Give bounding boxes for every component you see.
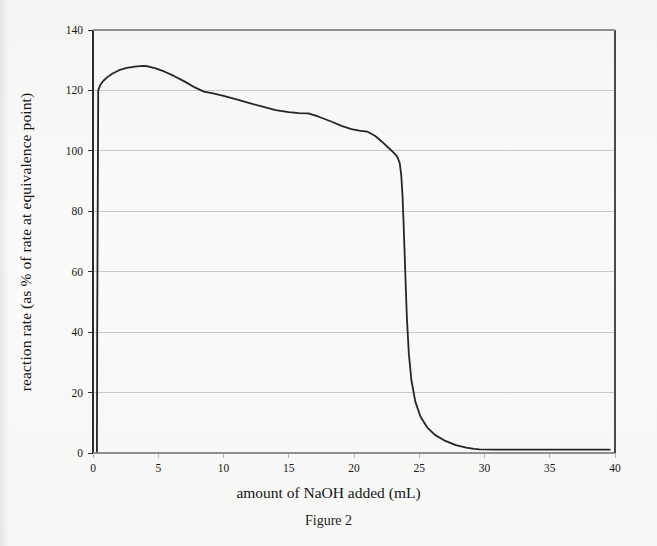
x-axis-tick-label: 25 [414, 462, 426, 474]
y-axis-tick-label: 40 [45, 326, 83, 338]
y-axis-tick-label: 0 [45, 447, 83, 459]
x-axis-label: amount of NaOH added (mL) [0, 484, 657, 502]
data-series-line [97, 66, 610, 452]
y-axis-tick-label: 60 [45, 266, 83, 278]
figure-container: reaction rate (as % of rate at equivalen… [0, 0, 657, 546]
x-axis-tick-label: 20 [348, 462, 360, 474]
x-axis-tick-label: 35 [544, 462, 556, 474]
figure-caption: Figure 2 [0, 513, 657, 529]
y-axis-tick-label: 20 [45, 387, 83, 399]
y-axis-tick-label: 80 [45, 205, 83, 217]
x-axis-tick-label: 5 [155, 462, 161, 474]
x-axis-tick-label: 30 [479, 462, 491, 474]
x-axis-tick-label: 15 [283, 462, 295, 474]
y-axis-label-text: reaction rate (as % of rate at equivalen… [17, 93, 35, 391]
x-axis-tick-label: 0 [90, 462, 96, 474]
y-axis-label: reaction rate (as % of rate at equivalen… [14, 30, 38, 454]
y-axis-tick-label: 100 [45, 145, 83, 157]
x-axis-tick-label: 10 [218, 462, 230, 474]
chart-plot-area [0, 0, 657, 546]
y-axis-tick-label: 120 [45, 84, 83, 96]
x-axis-tick-label: 40 [609, 462, 621, 474]
y-axis-tick-label: 140 [45, 24, 83, 36]
